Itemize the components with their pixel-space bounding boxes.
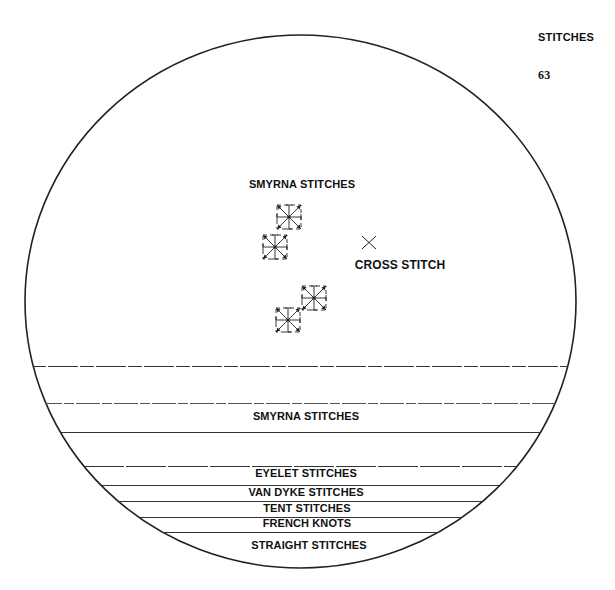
band-label-straight: STRAIGHT STITCHES: [251, 539, 366, 551]
cross-stitch-icon: [362, 236, 376, 249]
cross-stitch-label: CROSS STITCH: [355, 258, 446, 272]
smyrna-stitch-icon: [263, 205, 301, 259]
band-label-eyelet: EYELET STITCHES: [255, 467, 357, 479]
band-label-french-knots: FRENCH KNOTS: [263, 517, 352, 529]
band-label-tent: TENT STITCHES: [263, 502, 350, 514]
smyrna-stitches-label: SMYRNA STITCHES: [249, 178, 355, 190]
smyrna-stitch-icon: [276, 286, 326, 332]
band-label-smyrna: SMYRNA STITCHES: [253, 410, 359, 422]
band-label-van-dyke: VAN DYKE STITCHES: [248, 486, 363, 498]
